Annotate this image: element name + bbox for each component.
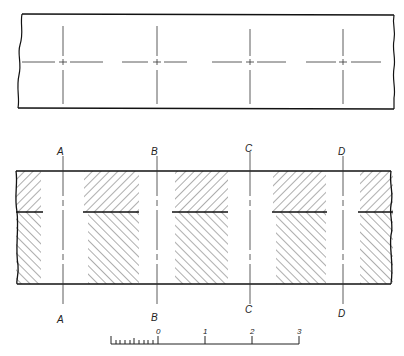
hatch-block-5 xyxy=(360,171,393,284)
scale-bar xyxy=(111,336,299,344)
section-label-c-bottom: C xyxy=(245,304,253,315)
section-view: A B C D A B C D xyxy=(16,143,393,325)
plan-bottom-edge xyxy=(18,108,394,109)
section-label-b-bottom: B xyxy=(151,312,158,323)
section-label-d-bottom: D xyxy=(338,308,345,319)
crosshair-4 xyxy=(306,29,381,104)
scale-label-1: 1 xyxy=(203,327,207,336)
hatch-block-3 xyxy=(175,171,228,284)
crosshair-3 xyxy=(212,29,286,104)
section-label-a-bottom: A xyxy=(56,314,64,325)
technical-drawing: A B C D A B C D 0 1 2 3 xyxy=(0,0,404,356)
crosshair-1 xyxy=(22,26,103,104)
crosshair-2 xyxy=(122,26,187,104)
scale-label-3: 3 xyxy=(297,327,302,336)
plan-left-break xyxy=(18,14,22,108)
section-label-c-top: C xyxy=(245,143,253,154)
section-label-d-top: D xyxy=(338,146,345,157)
hatch-block-1 xyxy=(16,171,41,284)
hatch-block-2 xyxy=(84,171,139,284)
plan-right-break xyxy=(393,15,394,109)
section-label-a-top: A xyxy=(56,146,64,157)
hatch-block-4 xyxy=(273,171,326,284)
section-label-b-top: B xyxy=(151,146,158,157)
plan-top-edge xyxy=(22,14,394,15)
plan-view xyxy=(18,14,395,109)
scale-label-2: 2 xyxy=(249,327,255,336)
scale-label-0: 0 xyxy=(156,327,161,336)
